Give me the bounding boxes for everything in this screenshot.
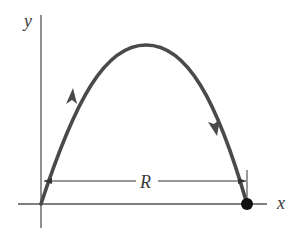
down-direction-arrow-icon	[208, 119, 220, 136]
diagram-svg: y x R	[0, 0, 294, 241]
y-axis-label: y	[22, 11, 32, 31]
up-direction-arrow-icon	[66, 88, 77, 104]
landing-point	[241, 198, 253, 210]
projectile-diagram: y x R	[0, 0, 294, 241]
range-label: R	[139, 172, 151, 192]
x-axis-label: x	[276, 193, 285, 213]
